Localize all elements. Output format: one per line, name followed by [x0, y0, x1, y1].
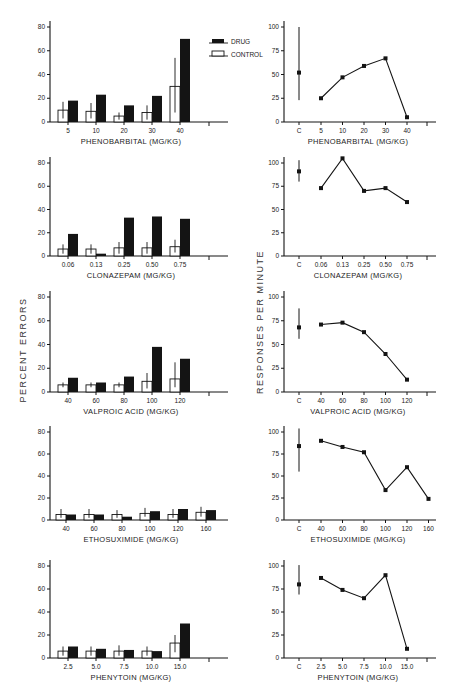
y-tick-label: 25	[272, 631, 280, 638]
x-tick-label: 20	[360, 127, 368, 134]
x-tick-label: 15.0	[174, 663, 187, 670]
x-tick-label: 40	[64, 397, 72, 404]
y-tick-label: 75	[272, 450, 280, 457]
y-tick-label: 100	[268, 293, 279, 300]
drug-bar	[180, 219, 190, 256]
x-tick-label: 100	[380, 525, 391, 532]
data-point	[405, 200, 409, 204]
x-axis-label: VALPROIC ACID (MG/KG)	[83, 407, 179, 416]
drug-bar	[96, 649, 106, 658]
legend-control-swatch	[212, 51, 224, 56]
drug-bar	[96, 254, 106, 256]
x-axis-label: VALPROIC ACID (MG/KG)	[310, 407, 406, 416]
y-tick-label: 100	[268, 159, 279, 166]
y-tick-label: 60	[38, 182, 46, 189]
y-tick-label: 50	[272, 206, 280, 213]
data-point	[341, 75, 345, 79]
x-tick-label: 40	[317, 525, 325, 532]
x-tick-label: 15.0	[401, 663, 414, 670]
data-point	[319, 323, 323, 327]
drug-bar	[96, 95, 106, 122]
x-tick-label: 100	[380, 397, 391, 404]
x-tick-label: C	[297, 525, 302, 532]
x-tick-label: 100	[145, 525, 156, 532]
drug-bar	[178, 509, 188, 520]
chart-panel-right-1: 0255075100510203040CPHENOBARBITAL (MG/KG…	[268, 21, 436, 146]
x-axis-label: PHENOBARBITAL (MG/KG)	[308, 137, 409, 146]
data-point	[319, 439, 323, 443]
drug-bar	[180, 39, 190, 122]
x-axis-label: PHENOBARBITAL (MG/KG)	[81, 137, 182, 146]
drug-bar	[124, 377, 134, 392]
x-axis-label: CLONAZEPAM (MG/KG)	[314, 271, 403, 280]
chart-panel-left-5: 0204060802.55.07.510.015.0PHENYTOIN (MG/…	[38, 560, 228, 682]
data-point	[384, 56, 388, 60]
data-point	[341, 321, 345, 325]
y-tick-label: 0	[41, 118, 45, 125]
chart-panel-left-1: 020406080510203040PHENOBARBITAL (MG/KG)	[38, 21, 228, 146]
x-tick-label: 0.13	[90, 261, 103, 268]
x-tick-label: 0.25	[118, 261, 131, 268]
data-point	[341, 445, 345, 449]
drug-bar	[122, 517, 132, 520]
chart-panel-right-4: 0255075100406080100120160CETHOSUXIMIDE (…	[268, 426, 436, 544]
legend-drug-label: DRUG	[231, 38, 250, 45]
y-tick-label: 75	[272, 585, 280, 592]
data-point	[319, 186, 323, 190]
data-point	[405, 465, 409, 469]
x-tick-label: 80	[360, 397, 368, 404]
data-point	[384, 186, 388, 190]
chart-panel-left-3: 020406080406080100120VALPROIC ACID (MG/K…	[38, 291, 228, 416]
x-tick-label: 7.5	[359, 663, 368, 670]
y-tick-label: 0	[275, 118, 279, 125]
chart-panel-left-4: 020406080406080100120160ETHOSUXIMIDE (MG…	[38, 426, 228, 544]
drug-bar	[124, 105, 134, 122]
x-tick-label: 40	[62, 525, 70, 532]
x-tick-label: 120	[173, 525, 184, 532]
y-tick-label: 50	[272, 71, 280, 78]
y-tick-label: 0	[275, 252, 279, 259]
x-axis-label: PHENYTOIN (MG/KG)	[318, 673, 399, 682]
drug-bar	[68, 378, 78, 392]
control-point	[297, 582, 301, 586]
x-tick-label: 0.25	[358, 261, 371, 268]
drug-bar	[96, 383, 106, 393]
x-tick-label: 0.13	[336, 261, 349, 268]
x-tick-label: 10.0	[379, 663, 392, 670]
data-point	[319, 576, 323, 580]
y-tick-label: 0	[275, 516, 279, 523]
data-point	[405, 647, 409, 651]
y-tick-label: 100	[268, 428, 279, 435]
x-tick-label: C	[297, 261, 302, 268]
x-tick-label: 60	[92, 397, 100, 404]
data-point	[405, 115, 409, 119]
x-tick-label: 40	[317, 397, 325, 404]
y-tick-label: 40	[38, 608, 46, 615]
y-tick-label: 50	[272, 608, 280, 615]
x-tick-label: 0.50	[146, 261, 159, 268]
x-tick-label: 60	[339, 525, 347, 532]
x-tick-label: 10	[92, 127, 100, 134]
y-tick-label: 50	[272, 341, 280, 348]
chart-panel-right-5: 02550751002.55.07.510.015.0CPHENYTOIN (M…	[268, 560, 436, 682]
data-point	[341, 588, 345, 592]
x-tick-label: 40	[176, 127, 184, 134]
drug-bar	[152, 651, 162, 658]
x-tick-label: 0.75	[174, 261, 187, 268]
drug-bar	[150, 511, 160, 520]
y-tick-label: 100	[268, 562, 279, 569]
drug-bar	[94, 515, 104, 521]
control-point	[297, 325, 301, 329]
x-axis-label: ETHOSUXIMIDE (MG/KG)	[83, 535, 178, 544]
x-tick-label: 80	[118, 525, 126, 532]
y-tick-label: 20	[38, 494, 46, 501]
drug-bar	[68, 647, 78, 659]
y-tick-label: 0	[41, 654, 45, 661]
x-tick-label: 5	[319, 127, 323, 134]
x-tick-label: 80	[120, 397, 128, 404]
y-tick-label: 75	[272, 317, 280, 324]
y-tick-label: 0	[41, 516, 45, 523]
x-tick-label: 2.5	[63, 663, 72, 670]
drug-bar	[152, 347, 162, 392]
x-tick-label: 0.50	[379, 261, 392, 268]
